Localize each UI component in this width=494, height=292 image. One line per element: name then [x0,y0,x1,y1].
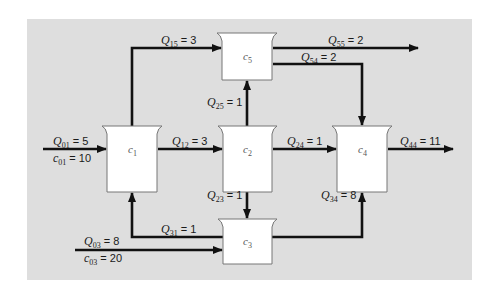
reactor-network-diagram: c1 c2 c3 c4 c5 Q01= 5 c01= 10 Q12= 3 Q15… [0,0,494,292]
reactor-c1 [102,126,162,192]
reactor-c2 [218,126,277,192]
reactor-c4 [332,126,392,192]
